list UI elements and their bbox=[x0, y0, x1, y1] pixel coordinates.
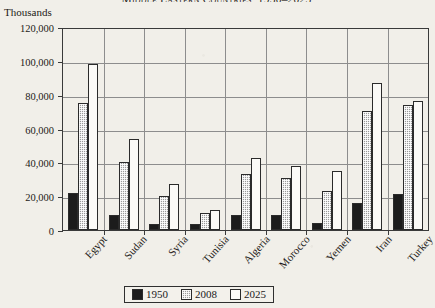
bar-turkey-2008 bbox=[403, 105, 413, 230]
bar-group-egypt bbox=[63, 29, 104, 230]
y-axis-tick-label: 60,000 bbox=[25, 124, 54, 135]
bar-syria-2008 bbox=[159, 196, 169, 230]
bar-algeria-2008 bbox=[241, 174, 251, 230]
y-axis-tick-label: 80,000 bbox=[25, 90, 54, 101]
x-axis-label-iran: Iran bbox=[373, 233, 394, 254]
bar-sudan-2008 bbox=[119, 162, 129, 230]
x-axis-label-egypt: Egypt bbox=[82, 233, 109, 261]
bar-group-morocco bbox=[266, 29, 307, 230]
x-axis-label-yemen: Yemen bbox=[324, 233, 353, 264]
bar-sudan-2025 bbox=[129, 139, 139, 230]
bar-group-iran bbox=[347, 29, 388, 230]
bar-algeria-2025 bbox=[251, 158, 261, 230]
bar-tunisia-2025 bbox=[210, 210, 220, 230]
bar-morocco-1950 bbox=[271, 215, 281, 230]
bar-yemen-1950 bbox=[312, 223, 322, 230]
bar-egypt-2008 bbox=[78, 103, 88, 230]
chart-title: Middle Eastern Countries, 1950–2025 bbox=[0, 0, 433, 2]
bar-turkey-2025 bbox=[413, 101, 423, 230]
bar-group-algeria bbox=[225, 29, 266, 230]
x-axis-labels: EgyptSudanSyriaTunisiaAlgeriaMoroccoYeme… bbox=[62, 233, 429, 277]
y-axis-tick-mark bbox=[58, 197, 63, 198]
y-axis-tick-label: 0 bbox=[49, 226, 54, 237]
bar-tunisia-1950 bbox=[190, 224, 200, 230]
bar-egypt-1950 bbox=[68, 193, 78, 230]
bar-group-turkey bbox=[388, 29, 429, 230]
bar-tunisia-2008 bbox=[200, 213, 210, 230]
y-axis-tick-mark bbox=[58, 130, 63, 131]
bar-sudan-1950 bbox=[109, 215, 119, 230]
y-axis-unit-label: Thousands bbox=[4, 6, 52, 18]
bar-syria-1950 bbox=[149, 224, 159, 230]
x-axis-label-sudan: Sudan bbox=[122, 233, 149, 261]
legend-swatch-1950 bbox=[132, 289, 143, 300]
bar-group-syria bbox=[144, 29, 185, 230]
bar-yemen-2025 bbox=[332, 171, 342, 230]
bar-group-tunisia bbox=[185, 29, 226, 230]
y-axis-tick-mark bbox=[58, 96, 63, 97]
legend-label-2008: 2008 bbox=[195, 288, 217, 300]
y-axis-tick-label: 100,000 bbox=[20, 56, 54, 67]
bar-morocco-2008 bbox=[281, 178, 291, 230]
plot-area bbox=[62, 28, 429, 231]
bar-egypt-2025 bbox=[88, 64, 98, 230]
bar-turkey-1950 bbox=[393, 194, 403, 230]
x-axis-label-algeria: Algeria bbox=[241, 233, 272, 266]
legend-label-1950: 1950 bbox=[146, 288, 168, 300]
y-axis-tick-mark bbox=[58, 163, 63, 164]
y-axis-tick-mark bbox=[58, 62, 63, 63]
bar-algeria-1950 bbox=[231, 215, 241, 230]
bar-iran-1950 bbox=[352, 203, 362, 230]
legend-swatch-2008 bbox=[181, 289, 192, 300]
x-axis-label-tunisia: Tunisia bbox=[200, 233, 231, 265]
y-axis-tick-mark bbox=[58, 231, 63, 232]
bar-groups bbox=[63, 29, 428, 230]
bar-group-yemen bbox=[306, 29, 347, 230]
x-axis-label-morocco: Morocco bbox=[277, 233, 312, 271]
y-axis-tick-label: 120,000 bbox=[20, 23, 54, 34]
legend-label-2025: 2025 bbox=[244, 288, 266, 300]
x-axis-label-syria: Syria bbox=[166, 233, 190, 258]
y-axis-tick-label: 20,000 bbox=[25, 192, 54, 203]
x-axis-label-turkey: Turkey bbox=[405, 233, 435, 264]
legend-item-1950: 1950 bbox=[132, 288, 168, 300]
legend-swatch-2025 bbox=[230, 289, 241, 300]
bar-iran-2008 bbox=[362, 111, 372, 230]
bar-morocco-2025 bbox=[291, 166, 301, 230]
bar-group-sudan bbox=[104, 29, 145, 230]
bar-iran-2025 bbox=[372, 83, 382, 230]
chart-legend: 1950 2008 2025 bbox=[124, 286, 274, 303]
legend-item-2008: 2008 bbox=[181, 288, 217, 300]
y-axis-tick-mark bbox=[58, 28, 63, 29]
bar-yemen-2008 bbox=[322, 191, 332, 230]
bar-syria-2025 bbox=[169, 184, 179, 230]
y-axis-tick-label: 40,000 bbox=[25, 158, 54, 169]
legend-item-2025: 2025 bbox=[230, 288, 266, 300]
